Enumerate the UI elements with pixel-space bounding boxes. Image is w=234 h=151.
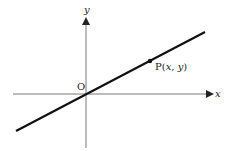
point-p: [148, 59, 152, 63]
y-axis-label: y: [83, 4, 90, 15]
origin-label: O: [77, 81, 85, 92]
line-through-origin: [16, 32, 205, 131]
coordinate-diagram: y x O P(x, y): [0, 0, 234, 151]
point-p-label: P(x, y): [155, 61, 187, 72]
x-axis-label: x: [215, 88, 221, 99]
